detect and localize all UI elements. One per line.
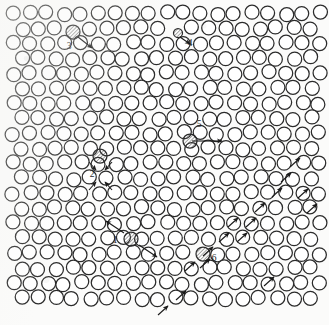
lattice-particle — [141, 68, 155, 82]
lattice-particle — [117, 290, 131, 304]
lattice-particle — [313, 216, 327, 230]
lattice-particle — [160, 246, 174, 260]
lattice-particle — [226, 155, 240, 169]
lattice-particle — [211, 8, 225, 22]
lattice-particle — [252, 82, 266, 96]
lattice-particle — [91, 37, 105, 51]
lattice-particle — [48, 232, 62, 246]
lattice-particle — [149, 83, 163, 97]
defect-label-5: 5 — [197, 119, 202, 129]
lattice-particle — [279, 185, 293, 199]
lattice-particle — [58, 187, 72, 201]
lattice-particle — [41, 37, 55, 51]
lattice-particle — [57, 67, 71, 81]
lattice-particle — [42, 66, 56, 80]
lattice-particle — [303, 260, 317, 274]
lattice-particle — [151, 261, 165, 275]
lattice-particle — [101, 202, 115, 216]
lattice-particle — [127, 217, 141, 231]
lattice-particle — [47, 200, 61, 214]
lattice-particle — [312, 276, 326, 290]
lattice-particle — [278, 95, 292, 109]
lattice-particle — [23, 37, 37, 51]
lattice-particle — [15, 290, 29, 304]
lattice-particle — [194, 97, 208, 111]
lattice-particle — [109, 96, 123, 110]
lattice-particle — [295, 7, 309, 21]
lattice-particle — [244, 185, 258, 199]
lattice-particle — [228, 67, 242, 81]
lattice-particle — [260, 216, 274, 230]
lattice-particle — [159, 187, 173, 201]
lattice-particle — [245, 5, 259, 19]
lattice-particle — [280, 277, 294, 291]
lattice-particle — [92, 247, 106, 261]
lattice-particle — [16, 51, 30, 65]
lattice-particle — [269, 172, 283, 186]
lattice-particle — [161, 215, 175, 229]
lattice-particle — [227, 35, 241, 49]
lattice-particle — [261, 246, 275, 260]
lattice-particle — [303, 22, 317, 36]
lattice-particle — [6, 215, 20, 229]
lattice-particle — [311, 97, 325, 111]
lattice-particle — [234, 202, 248, 216]
lattice-particle — [220, 200, 234, 214]
lattice-particle — [6, 155, 20, 169]
lattice-particle — [160, 275, 174, 289]
lattice-particle — [83, 81, 97, 95]
lattice-particle — [287, 292, 301, 306]
lattice-particle — [32, 202, 46, 216]
lattice-particle — [15, 230, 29, 244]
lattice-particle — [210, 155, 224, 169]
lattice-particle — [66, 80, 80, 94]
lattice-figure: 123456 — [0, 0, 329, 325]
lattice-particle — [305, 81, 319, 95]
lattice-particle — [288, 260, 302, 274]
lattice-particle — [151, 201, 165, 215]
lattice-particle — [39, 5, 53, 19]
lattice-particle — [125, 6, 139, 20]
lattice-particle — [101, 51, 115, 65]
lattice-particle — [5, 187, 19, 201]
lattice-particle — [201, 172, 215, 186]
lattice-particle — [74, 186, 88, 200]
marked-particle-4 — [174, 29, 183, 38]
lattice-particle — [75, 275, 89, 289]
lattice-particle — [93, 187, 107, 201]
lattice-particle — [313, 66, 327, 80]
defect-label-3: 3 — [67, 41, 72, 51]
lattice-particle — [32, 230, 46, 244]
lattice-particle — [167, 110, 181, 124]
lattice-particle — [217, 260, 231, 274]
lattice-particle — [243, 156, 257, 170]
lattice-particle — [83, 111, 97, 125]
lattice-particle — [124, 157, 138, 171]
lattice-particle — [117, 202, 131, 216]
lattice-particle — [135, 200, 149, 214]
lattice-particle — [286, 80, 300, 94]
lattice-particle — [151, 141, 165, 155]
lattice-particle — [64, 140, 78, 154]
lattice-particle — [297, 155, 311, 169]
lattice-particle — [118, 170, 132, 184]
lattice-particle — [150, 231, 164, 245]
lattice-particle — [270, 231, 284, 245]
lattice-particle — [143, 96, 157, 110]
lattice-particle — [91, 98, 105, 112]
lattice-particle — [109, 126, 123, 140]
lattice-particle — [209, 275, 223, 289]
lattice-particle — [5, 128, 19, 142]
lattice-particle — [73, 7, 87, 21]
lattice-particle — [270, 112, 284, 126]
lattice-particle — [279, 66, 293, 80]
lattice-particle — [297, 96, 311, 110]
lattice-particle — [91, 276, 105, 290]
lattice-particle — [167, 203, 181, 217]
lattice-particle — [236, 262, 250, 276]
lattice-particle — [74, 67, 88, 81]
lattice-particle — [66, 53, 80, 67]
lattice-particle — [219, 141, 233, 155]
lattice-particle — [22, 66, 36, 80]
lattice-particle — [23, 96, 37, 110]
